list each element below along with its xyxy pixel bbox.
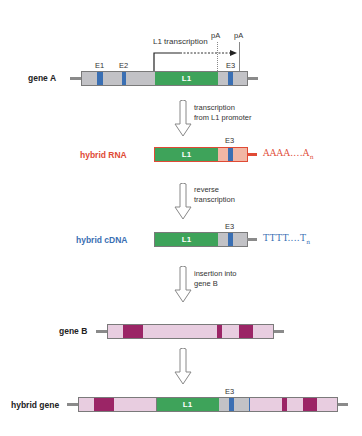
- hybrid-cdna-label: hybrid cDNA: [76, 235, 127, 245]
- gene-a-label: gene A: [28, 73, 56, 83]
- gene-b-exon-2: [217, 325, 222, 338]
- rna-tail-line: [247, 153, 257, 156]
- pa-label-1: pA: [211, 31, 220, 40]
- hybrid-gene-label: hybrid gene: [11, 400, 59, 410]
- gene-a-bar: L1: [81, 71, 248, 86]
- hybrid-gene-l1-label: L1: [156, 398, 219, 411]
- hybrid-cdna-bar: L1: [154, 232, 248, 247]
- e2-label: E2: [119, 61, 128, 70]
- e1-label: E1: [95, 61, 104, 70]
- step-3-line-2: gene B: [194, 279, 237, 289]
- exon-e2: [122, 72, 126, 85]
- gene-b-exon-1: [123, 325, 143, 338]
- hybrid-gene-gray-segment: [219, 398, 250, 411]
- down-arrow-icon: [173, 100, 193, 138]
- exon-e1: [97, 72, 103, 85]
- gene-b-exon-3: [239, 325, 253, 338]
- down-arrow-icon: [173, 266, 193, 304]
- hybrid-gene-exon-b1: [94, 398, 114, 411]
- cdna-tail-line: [247, 238, 257, 241]
- transcription-arrow: [150, 48, 240, 72]
- step-1-line-1: transcription: [194, 103, 252, 113]
- hybrid-gene-e3-label: E3: [225, 387, 234, 396]
- step-2-text: reverse transcription: [194, 185, 235, 205]
- step-3-text: insertion into gene B: [194, 269, 237, 289]
- hybrid-rna-label: hybrid RNA: [80, 150, 127, 160]
- rna-e3-label: E3: [225, 136, 234, 145]
- poly-a-sub: n: [310, 153, 314, 160]
- hybrid-gene-exon-b2: [282, 398, 287, 411]
- gene-b-label: gene B: [59, 326, 87, 336]
- step-1-line-2: from L1 promoter: [194, 113, 252, 123]
- step-1-text: transcription from L1 promoter: [194, 103, 252, 123]
- cdna-e3-label: E3: [225, 222, 234, 231]
- hybrid-gene-right-tail: [337, 403, 348, 406]
- down-arrow-icon: [173, 183, 193, 221]
- poly-a-text: AAAA....A: [263, 148, 310, 158]
- hybrid-gene-bar: L1: [78, 397, 338, 412]
- poly-a-tail: AAAA....An: [263, 148, 314, 160]
- hybrid-gene-exon-b3: [303, 398, 317, 411]
- poly-t-tail: TTTT....Tn: [263, 233, 311, 245]
- step-2-line-2: transcription: [194, 195, 235, 205]
- poly-t-sub: n: [306, 238, 310, 245]
- down-arrow-icon: [173, 348, 193, 386]
- exon-e3: [228, 72, 233, 85]
- poly-t-text: TTTT....T: [263, 233, 306, 243]
- hybrid-gene-e3-segment: [229, 398, 234, 411]
- step-2-line-1: reverse: [194, 185, 235, 195]
- gene-b-bar: [107, 324, 274, 339]
- step-3-line-1: insertion into: [194, 269, 237, 279]
- gene-b-right-tail: [273, 330, 284, 333]
- gene-a-right-tail: [247, 77, 258, 80]
- cdna-l1-label: L1: [155, 233, 218, 246]
- l1-label: L1: [155, 72, 218, 85]
- rna-e3-segment: [228, 148, 233, 161]
- hybrid-rna-bar: L1: [154, 147, 248, 162]
- transcription-label: L1 transcription: [153, 37, 208, 46]
- cdna-e3-segment: [228, 233, 233, 246]
- pa-label-2: pA: [234, 31, 243, 40]
- rna-l1-label: L1: [155, 148, 218, 161]
